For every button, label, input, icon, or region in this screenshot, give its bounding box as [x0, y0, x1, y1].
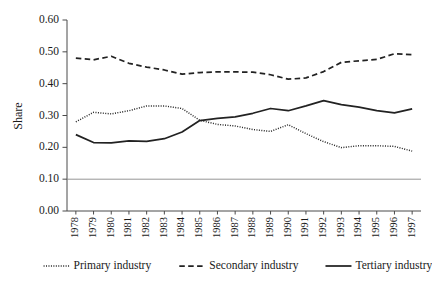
- series-line-secondary: [76, 54, 412, 79]
- y-tick-label: 0.40: [39, 77, 59, 89]
- legend-label-tertiary: Tertiary industry: [355, 259, 432, 272]
- x-tick-label: 1982: [140, 217, 151, 238]
- x-tick-label: 1991: [299, 217, 310, 238]
- y-axis-group: 0.000.100.200.300.400.500.60: [39, 13, 67, 216]
- x-tick-group: 1978197919801981198219831984198519861987…: [69, 211, 416, 238]
- x-tick-label: 1989: [264, 217, 275, 238]
- x-tick-label: 1984: [175, 216, 186, 238]
- x-tick-label: 1981: [122, 217, 133, 238]
- x-tick-label: 1992: [317, 217, 328, 238]
- x-tick-label: 1979: [87, 217, 98, 238]
- x-axis-group: 1978197919801981198219831984198519861987…: [67, 211, 421, 238]
- y-tick-label: 0.50: [39, 45, 59, 57]
- y-tick-label: 0.60: [39, 13, 59, 25]
- x-tick-label: 1990: [282, 217, 293, 238]
- x-tick-label: 1995: [370, 217, 381, 238]
- line-chart: 0.000.100.200.300.400.500.60 19781979198…: [0, 0, 432, 286]
- series-line-tertiary: [76, 101, 412, 143]
- chart-legend: Primary industrySecondary industryTertia…: [44, 259, 432, 272]
- x-tick-label: 1996: [388, 217, 399, 238]
- y-tick-label: 0.00: [39, 204, 59, 216]
- series-group: [76, 54, 412, 151]
- x-tick-label: 1980: [105, 217, 116, 238]
- y-tick-group: 0.000.100.200.300.400.500.60: [39, 13, 67, 216]
- chart-container: 0.000.100.200.300.400.500.60 19781979198…: [0, 0, 432, 286]
- x-tick-label: 1993: [335, 217, 346, 238]
- y-tick-label: 0.10: [39, 172, 59, 184]
- x-tick-label: 1978: [69, 217, 80, 238]
- legend-label-secondary: Secondary industry: [209, 259, 298, 272]
- legend-label-primary: Primary industry: [74, 259, 152, 272]
- y-axis-title: Share: [11, 102, 25, 129]
- x-tick-label: 1997: [406, 217, 417, 238]
- x-tick-label: 1985: [193, 217, 204, 238]
- x-tick-label: 1983: [158, 217, 169, 238]
- x-tick-label: 1986: [211, 217, 222, 238]
- x-tick-label: 1994: [352, 216, 363, 238]
- series-line-primary: [76, 106, 412, 151]
- y-tick-label: 0.30: [39, 109, 59, 121]
- x-tick-label: 1988: [246, 217, 257, 238]
- x-tick-label: 1987: [229, 217, 240, 238]
- y-tick-label: 0.20: [39, 140, 59, 152]
